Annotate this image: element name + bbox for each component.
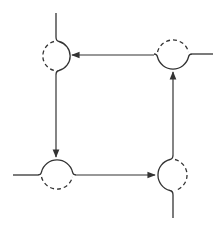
node-top-left-solid-arc <box>56 37 70 75</box>
node-top-left <box>43 13 70 75</box>
node-top-right-solid-arc <box>154 54 192 69</box>
node-top-right <box>154 40 213 69</box>
node-bottom-left-dashed-arc <box>42 177 73 189</box>
node-bottom-left <box>13 160 76 189</box>
node-top-right-dashed-arc <box>158 40 189 52</box>
cycle-diagram <box>0 0 224 226</box>
node-bottom-right-solid-arc <box>158 155 173 195</box>
node-bottom-right <box>158 155 187 218</box>
node-bottom-right-dashed-arc <box>175 160 187 191</box>
node-top-left-dashed-arc <box>43 42 54 71</box>
node-bottom-left-solid-arc <box>38 160 76 175</box>
